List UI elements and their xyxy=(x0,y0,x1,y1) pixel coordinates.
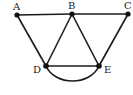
graph-diagram: A B C D E xyxy=(0,0,133,95)
node-a xyxy=(14,12,19,17)
edge-b-d xyxy=(46,14,72,66)
label-c: C xyxy=(124,0,132,11)
edge-c-e xyxy=(99,14,128,66)
edge-a-d xyxy=(17,15,46,66)
edge-a-b xyxy=(17,14,72,15)
node-c xyxy=(125,11,130,16)
label-e: E xyxy=(104,64,111,75)
label-d: D xyxy=(33,64,41,75)
label-b: B xyxy=(68,0,75,11)
label-a: A xyxy=(12,1,21,12)
edge-b-e xyxy=(72,14,99,66)
node-b xyxy=(69,11,74,16)
node-d xyxy=(43,63,49,69)
node-e xyxy=(96,63,102,69)
edge-d-e-curved xyxy=(46,66,99,81)
